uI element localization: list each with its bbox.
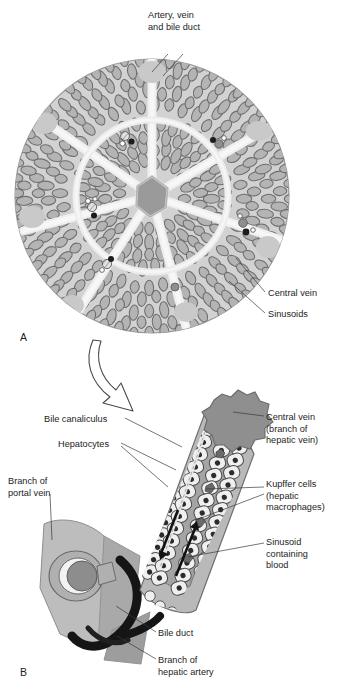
label-artery-vein-bile-duct: Artery, veinand bile duct xyxy=(148,10,201,32)
label-line: portal vein xyxy=(8,488,50,498)
label-bile-canaliculus: Bile canaliculus xyxy=(44,414,108,424)
label-line: Sinusoid xyxy=(266,537,301,547)
label-line: Branch of xyxy=(8,476,48,486)
label-line: Central vein xyxy=(268,288,317,298)
sinusoid-cord xyxy=(261,194,276,203)
label-line: hepatic artery xyxy=(158,667,214,677)
sinusoid-cord xyxy=(145,304,154,318)
sinusoid-cord xyxy=(52,189,67,198)
label-line: Bile canaliculus xyxy=(44,414,108,424)
label-line: and bile duct xyxy=(148,22,201,32)
sinusoid-cord xyxy=(203,194,220,203)
label-central-vein: Central vein xyxy=(268,288,317,298)
portal-vein-lumen xyxy=(67,561,97,591)
sinusoid-cord xyxy=(145,248,154,260)
sinusoid-cord xyxy=(32,189,45,198)
label-line: Hepatocytes xyxy=(58,439,109,449)
panel-letter-a: A xyxy=(20,331,27,343)
label-branch-of-portal-vein: Branch ofportal vein xyxy=(8,476,50,498)
label-line: Kupffer cells xyxy=(266,479,317,489)
label-hepatocytes: Hepatocytes xyxy=(58,439,109,449)
sinusoid-cord xyxy=(145,222,154,235)
label-line: Central vein xyxy=(266,412,315,422)
portal-triad xyxy=(171,283,179,291)
label-line: Artery, vein xyxy=(148,10,194,20)
label-line: blood xyxy=(266,560,288,570)
label-line: containing xyxy=(266,549,308,559)
panel-letter-b: B xyxy=(20,666,27,678)
label-bile-duct: Bile duct xyxy=(158,628,194,638)
label-line: (branch of xyxy=(266,424,308,434)
label-line: Bile duct xyxy=(158,628,194,638)
label-line: (hepatic xyxy=(266,491,299,501)
label-line: hepatic vein) xyxy=(266,435,318,445)
label-line: Branch of xyxy=(158,655,198,665)
sinusoid-cord xyxy=(113,189,126,198)
label-sinusoids: Sinusoids xyxy=(268,309,308,319)
liver-lobule-figure: Artery, veinand bile ductCentral veinSin… xyxy=(0,0,350,691)
label-line: Sinusoids xyxy=(268,309,308,319)
label-line: macrophages) xyxy=(266,502,325,512)
hepatocyte xyxy=(145,591,155,601)
